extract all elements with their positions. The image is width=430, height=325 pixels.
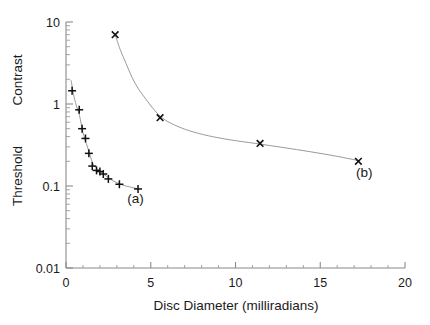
y-tick-label: 10 — [46, 16, 60, 30]
x-tick-label: 0 — [63, 276, 70, 290]
y-tick-label: 1 — [53, 98, 60, 112]
data-point-b — [355, 158, 362, 165]
fit-curve-a — [71, 80, 139, 189]
x-tick-label: 5 — [147, 276, 154, 290]
chart-figure: 1010.10.01 05101520 (a)(b) Disc Diameter… — [0, 0, 430, 325]
series-annotation: (b) — [356, 165, 373, 180]
threshold-contrast-plot: 1010.10.01 05101520 (a)(b) Disc Diameter… — [0, 0, 430, 325]
data-point-a — [78, 125, 86, 133]
y-axis-title-line2: Contrast — [10, 54, 25, 105]
y-axis-ticks — [66, 22, 73, 268]
data-point-b — [112, 31, 119, 38]
data-markers — [68, 31, 362, 193]
y-axis-title-line1: Threshold — [10, 146, 25, 206]
data-point-a — [81, 134, 89, 142]
y-tick-label: 0.01 — [36, 262, 60, 276]
y-tick-label: 0.1 — [43, 180, 60, 194]
fit-curves — [71, 35, 359, 189]
data-point-a — [88, 162, 96, 170]
data-point-a — [115, 180, 123, 188]
axis-lines — [66, 22, 405, 268]
fit-curve-b — [115, 35, 359, 161]
x-axis-tick-labels: 05101520 — [63, 276, 412, 290]
series-annotations: (a)(b) — [127, 165, 372, 206]
x-tick-label: 20 — [398, 276, 412, 290]
data-point-a — [68, 87, 76, 95]
x-axis-ticks — [66, 262, 405, 268]
data-point-a — [85, 149, 93, 157]
y-axis-tick-labels: 1010.10.01 — [36, 16, 60, 276]
x-tick-label: 10 — [229, 276, 243, 290]
series-annotation: (a) — [127, 191, 144, 206]
x-axis-title: Disc Diameter (milliradians) — [153, 298, 318, 313]
x-tick-label: 15 — [313, 276, 327, 290]
